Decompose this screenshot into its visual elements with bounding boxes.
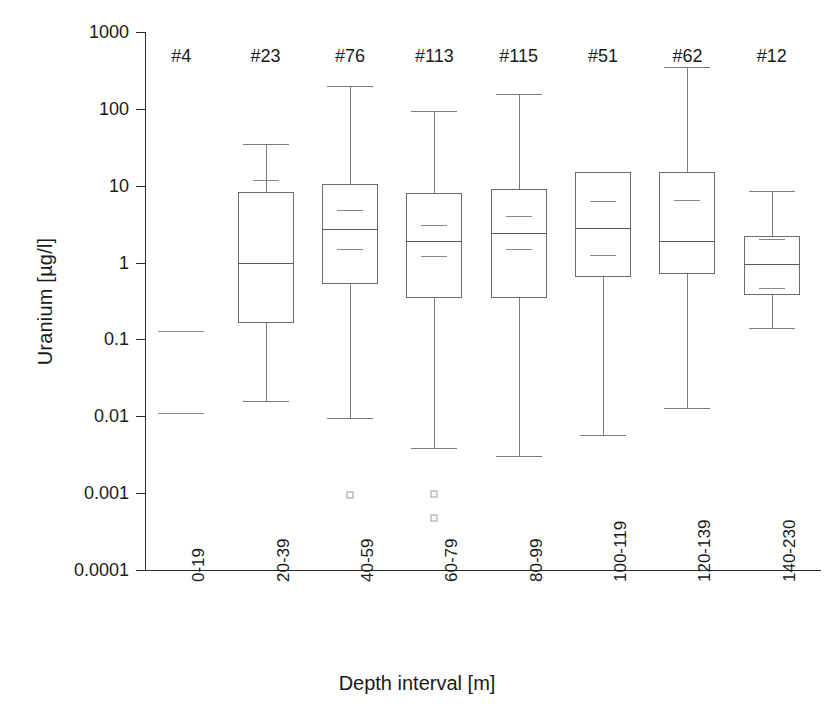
y-tick-mark	[136, 570, 145, 571]
mean-marker	[253, 180, 279, 181]
secondary-marker	[421, 256, 447, 257]
interquartile-box[interactable]	[659, 172, 715, 274]
upper-whisker	[434, 111, 435, 194]
lower-whisker-cap	[243, 401, 289, 402]
lower-whisker-cap	[664, 408, 710, 409]
interquartile-box[interactable]	[491, 189, 547, 297]
y-axis-line	[145, 32, 146, 571]
lower-whisker	[603, 277, 604, 435]
median-line	[238, 263, 294, 264]
interquartile-box[interactable]	[322, 184, 378, 284]
value-mark	[158, 331, 204, 332]
upper-whisker	[350, 86, 351, 184]
median-line	[575, 228, 631, 229]
y-tick-mark	[136, 263, 145, 264]
y-tick-label: 10	[13, 175, 129, 196]
lower-whisker	[434, 298, 435, 448]
outlier-point[interactable]	[346, 491, 353, 498]
upper-whisker-cap	[749, 191, 795, 192]
secondary-marker	[506, 249, 532, 250]
lower-whisker-cap	[580, 435, 626, 436]
upper-whisker-cap	[496, 94, 542, 95]
upper-whisker	[519, 94, 520, 189]
y-tick-mark	[136, 186, 145, 187]
mean-marker	[759, 239, 785, 240]
y-tick-mark	[136, 339, 145, 340]
lower-whisker-cap	[411, 448, 457, 449]
boxplot-figure: Uranium [µg/l] Depth interval [m] 100010…	[0, 0, 834, 719]
upper-whisker-cap	[327, 86, 373, 87]
lower-whisker-cap	[496, 456, 542, 457]
y-tick-label: 0.1	[13, 329, 129, 350]
mean-marker	[421, 225, 447, 226]
y-tick-mark	[136, 32, 145, 33]
median-line	[744, 264, 800, 265]
mean-marker	[337, 210, 363, 211]
upper-whisker	[772, 191, 773, 236]
secondary-marker	[337, 249, 363, 250]
y-tick-label: 1000	[13, 22, 129, 43]
y-tick-label: 0.001	[13, 483, 129, 504]
lower-whisker	[266, 323, 267, 401]
upper-whisker-cap	[411, 111, 457, 112]
y-axis-title: Uranium [µg/l]	[34, 172, 57, 432]
lower-whisker	[350, 284, 351, 418]
lower-whisker	[687, 274, 688, 407]
box-plot-group[interactable]	[659, 32, 715, 570]
secondary-marker	[759, 288, 785, 289]
upper-whisker-cap	[664, 67, 710, 68]
median-line	[322, 229, 378, 230]
y-tick-mark	[136, 493, 145, 494]
upper-whisker	[687, 67, 688, 172]
y-tick-label: 0.0001	[13, 560, 129, 581]
box-plot-group[interactable]	[322, 32, 378, 570]
y-tick-mark	[136, 109, 145, 110]
upper-whisker	[266, 144, 267, 192]
mean-marker	[674, 200, 700, 201]
box-plot-group[interactable]	[406, 32, 462, 570]
mean-marker	[506, 216, 532, 217]
box-plot-group[interactable]	[238, 32, 294, 570]
outlier-point[interactable]	[431, 515, 438, 522]
box-plot-group[interactable]	[491, 32, 547, 570]
lower-whisker	[519, 298, 520, 457]
outlier-point[interactable]	[431, 490, 438, 497]
interquartile-box[interactable]	[406, 193, 462, 297]
upper-whisker-cap	[243, 144, 289, 145]
box-plot-group[interactable]	[744, 32, 800, 570]
median-line	[491, 233, 547, 234]
box-plot-group[interactable]	[575, 32, 631, 570]
x-axis-title: Depth interval [m]	[0, 672, 834, 695]
y-tick-label: 1	[13, 252, 129, 273]
mean-marker	[590, 201, 616, 202]
interquartile-box[interactable]	[575, 172, 631, 277]
value-mark	[158, 413, 204, 414]
y-tick-mark	[136, 416, 145, 417]
median-line	[659, 241, 715, 242]
median-line	[406, 241, 462, 242]
interquartile-box[interactable]	[238, 192, 294, 322]
lower-whisker	[772, 295, 773, 328]
x-axis-line	[145, 570, 821, 571]
lower-whisker-cap	[749, 328, 795, 329]
box-plot-group[interactable]	[153, 32, 209, 570]
y-tick-label: 100	[13, 98, 129, 119]
y-tick-label: 0.01	[13, 406, 129, 427]
plot-area: 10001001010.10.010.0010.0001 0-1920-3940…	[145, 32, 820, 570]
secondary-marker	[590, 255, 616, 256]
interquartile-box[interactable]	[744, 236, 800, 295]
lower-whisker-cap	[327, 418, 373, 419]
